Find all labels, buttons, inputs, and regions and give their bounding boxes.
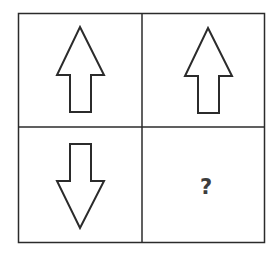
cell-top-right xyxy=(185,28,232,113)
arrow-up-icon xyxy=(185,28,232,113)
puzzle-grid xyxy=(0,0,277,261)
cell-top-left xyxy=(57,27,104,112)
cell-bottom-left xyxy=(57,144,104,228)
arrow-up-icon xyxy=(57,27,104,112)
question-mark: ? xyxy=(186,167,226,207)
arrow-down-icon xyxy=(57,144,104,228)
